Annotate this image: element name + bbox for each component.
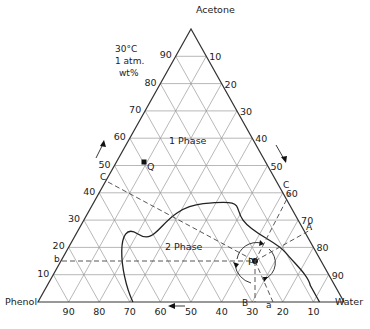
bottom-arrow-head-icon (168, 303, 175, 309)
bottom-tick-label: 60 (154, 306, 166, 317)
region-label-one-phase: 1 Phase (169, 135, 206, 146)
left-tick-label: 50 (99, 159, 111, 170)
line-label-b-bottom: B (242, 298, 248, 308)
region-label-two-phase: 2 Phase (165, 241, 202, 252)
left-tick-label: 40 (83, 186, 95, 197)
line-label-a-bottom: a (266, 300, 272, 310)
left-tick-label: 90 (160, 49, 172, 60)
line-label-b: b (54, 254, 60, 264)
grid-line-phenol (53, 275, 68, 302)
vertex-label-acetone: Acetone (196, 4, 235, 15)
bottom-tick-label: 90 (63, 306, 75, 317)
grid-line-water (313, 275, 328, 302)
bottom-tick-label: 70 (124, 306, 136, 317)
vertex-label-water: Water (335, 296, 363, 307)
vertex-label-phenol: Phenol (5, 296, 37, 307)
right-tick-label: 90 (332, 270, 344, 281)
ternary-diagram: 1020304050607080901020304050607080909080… (0, 0, 370, 329)
right-tick-label: 80 (316, 242, 328, 253)
right-tick-label: 30 (240, 106, 252, 117)
bottom-tick-label: 20 (277, 306, 289, 317)
left-tick-label: 20 (53, 240, 65, 251)
bottom-tick-label: 80 (93, 306, 105, 317)
grid-line-water (191, 166, 268, 303)
left-tick-label: 80 (144, 77, 156, 88)
left-tick-label: 60 (114, 131, 126, 142)
grid-line-water (69, 56, 207, 302)
bottom-tick-label: 40 (216, 306, 228, 317)
grid-line-phenol (176, 56, 314, 302)
left-arrow-head-icon (100, 140, 106, 147)
left-tick-label: 30 (68, 213, 80, 224)
right-tick-label: 40 (255, 133, 267, 144)
arc-arrow-icon (233, 262, 239, 268)
point-label-p: P (248, 256, 254, 267)
point-label-q: Q (147, 161, 154, 172)
condition-units: wt% (119, 68, 138, 78)
line-label-c-left: C (100, 172, 106, 182)
condition-pressure: 1 atm. (115, 56, 144, 66)
left-tick-label: 70 (129, 104, 141, 115)
right-tick-label: 50 (271, 161, 283, 172)
bottom-tick-label: 10 (307, 306, 319, 317)
point-q-marker (142, 160, 147, 165)
binodal-curve (122, 202, 320, 302)
left-tick-label: 10 (37, 268, 49, 279)
right-tick-label: 10 (209, 51, 221, 62)
condition-temp: 30°C (115, 44, 137, 54)
bottom-tick-label: 50 (185, 306, 197, 317)
right-tick-label: 20 (225, 79, 237, 90)
line-label-a-right: A (306, 222, 312, 232)
line-label-c-right: C (283, 180, 289, 190)
